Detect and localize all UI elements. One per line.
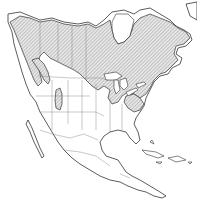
greenland-edge bbox=[186, 2, 197, 20]
species-range-colorado bbox=[55, 88, 62, 110]
baja-california bbox=[26, 120, 44, 158]
caribbean-islands bbox=[142, 140, 192, 164]
range-map bbox=[0, 0, 197, 207]
